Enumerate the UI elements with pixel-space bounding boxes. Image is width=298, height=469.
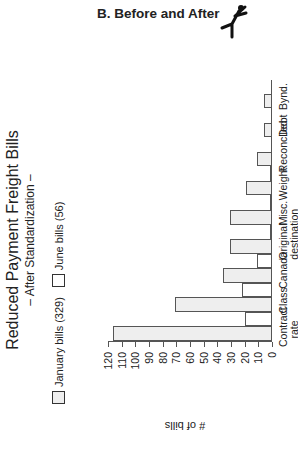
bar-june	[245, 312, 272, 327]
bar-january	[264, 94, 272, 109]
y-axis-label: # of bills	[165, 420, 205, 432]
y-tick	[163, 342, 164, 347]
bar-january	[246, 181, 272, 196]
y-tick	[258, 342, 259, 347]
y-tick-label: 40	[211, 352, 223, 382]
y-tick	[272, 342, 273, 347]
y-tick-label: 120	[102, 352, 114, 382]
bar-january	[257, 152, 272, 167]
legend-swatch-june	[52, 274, 65, 287]
bar-june	[270, 225, 272, 240]
y-tick-label: 70	[170, 352, 182, 382]
bar-june	[270, 166, 272, 181]
y-tick-label: 10	[252, 352, 264, 382]
chart-title: Reduced Payment Freight Bills	[4, 80, 22, 400]
bar-june	[242, 283, 272, 298]
plot-area: 0102030405060708090100110120	[108, 80, 272, 342]
category-label: Bynd.	[278, 79, 289, 114]
y-tick	[231, 342, 232, 347]
bar-january	[175, 297, 272, 312]
y-tick	[190, 342, 191, 347]
bar-january	[113, 326, 272, 341]
y-tick	[122, 342, 123, 347]
y-tick-label: 80	[157, 352, 169, 382]
y-tick	[108, 342, 109, 347]
legend-item-june: June bills (56)	[52, 202, 65, 287]
legend: January bills (329) June bills (56)	[52, 74, 65, 404]
bar-january	[230, 210, 272, 225]
y-tick-label: 60	[184, 352, 196, 382]
y-tick-label: 90	[143, 352, 155, 382]
bar-january	[223, 268, 272, 283]
bar-january	[264, 123, 272, 138]
y-tick	[135, 342, 136, 347]
y-tick	[176, 342, 177, 347]
y-tick-label: 20	[239, 352, 251, 382]
running-figure-icon	[208, 4, 248, 40]
legend-label-january: January bills (329)	[53, 297, 65, 387]
y-tick	[217, 342, 218, 347]
y-tick-label: 0	[266, 352, 278, 382]
rotated-chart: Reduced Payment Freight Bills – After St…	[0, 60, 280, 460]
header: B. Before and After	[0, 4, 298, 44]
y-tick-label: 50	[198, 352, 210, 382]
bar-june	[257, 254, 272, 269]
y-tick-label: 100	[129, 352, 141, 382]
y-tick	[149, 342, 150, 347]
legend-swatch-january	[52, 391, 65, 404]
legend-item-january: January bills (329)	[52, 297, 65, 404]
bar-january	[230, 239, 272, 254]
section-title: B. Before and After	[97, 6, 220, 21]
bar-june	[270, 195, 272, 210]
legend-label-june: June bills (56)	[53, 202, 65, 270]
y-tick-label: 30	[225, 352, 237, 382]
y-tick	[245, 342, 246, 347]
chart-subtitle: – After Standardization –	[23, 80, 37, 400]
y-tick-label: 110	[116, 352, 128, 382]
y-tick	[204, 342, 205, 347]
